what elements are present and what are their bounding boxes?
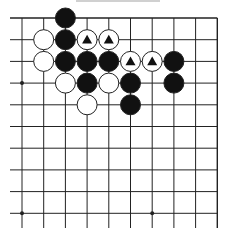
black-stone-icon <box>77 51 97 71</box>
white-stone[interactable] <box>99 30 119 50</box>
black-stone[interactable] <box>121 95 141 115</box>
white-stone[interactable] <box>121 51 141 71</box>
white-stone[interactable] <box>34 30 54 50</box>
black-stone-icon <box>55 30 75 50</box>
black-stone-icon <box>164 73 184 93</box>
white-stone[interactable] <box>77 30 97 50</box>
black-stone[interactable] <box>55 8 75 28</box>
white-stone[interactable] <box>55 73 75 93</box>
white-stone[interactable] <box>142 51 162 71</box>
black-stone-icon <box>121 73 141 93</box>
black-stone[interactable] <box>77 73 97 93</box>
black-stone-icon <box>164 51 184 71</box>
black-stone[interactable] <box>55 30 75 50</box>
star-point <box>20 81 24 85</box>
black-stone-icon <box>99 51 119 71</box>
black-stone-icon <box>55 8 75 28</box>
white-stone[interactable] <box>99 73 119 93</box>
go-board[interactable] <box>0 0 226 235</box>
black-stone[interactable] <box>164 51 184 71</box>
black-stone[interactable] <box>121 73 141 93</box>
black-stone[interactable] <box>77 51 97 71</box>
black-stone-icon <box>55 51 75 71</box>
white-stone-icon <box>55 73 75 93</box>
white-stone-icon <box>99 73 119 93</box>
black-stone[interactable] <box>55 51 75 71</box>
white-stone-icon <box>34 30 54 50</box>
black-stone[interactable] <box>164 73 184 93</box>
star-point <box>20 211 24 215</box>
white-stone[interactable] <box>34 51 54 71</box>
white-stone-icon <box>77 95 97 115</box>
black-stone-icon <box>77 73 97 93</box>
black-stone[interactable] <box>99 51 119 71</box>
white-stone[interactable] <box>77 95 97 115</box>
star-point <box>150 211 154 215</box>
black-stone-icon <box>121 95 141 115</box>
white-stone-icon <box>34 51 54 71</box>
